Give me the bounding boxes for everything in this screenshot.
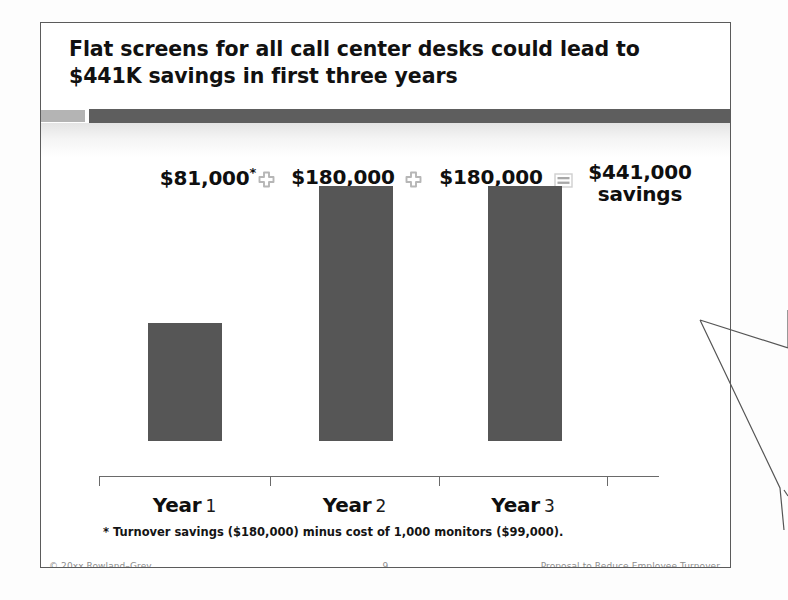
page-title: Flat screens for all call center desks c… [69,36,712,91]
chart-x-axis [99,476,659,487]
chart-footnote: * Turnover savings ($180,000) minus cost… [103,525,573,540]
presentation-slide: Flat screens for all call center desks c… [40,22,731,568]
x-axis-label-year-1: Year1 [99,493,270,517]
category-number: 3 [544,496,555,516]
x-axis-label-year-3: Year3 [439,493,607,517]
axis-tick [607,476,608,486]
axis-tick [270,476,271,486]
bar-year-3 [488,186,562,441]
axis-tick [99,476,100,486]
divider-main-bar [89,109,730,123]
footnote-marker: * [250,165,257,180]
category-word: Year [323,493,372,517]
divider-accent-segment [41,110,85,122]
bar-year-2 [319,186,393,441]
slide-title-block: Flat screens for all call center desks c… [41,23,730,109]
category-number: 1 [205,496,216,516]
total-savings-amount: $441,000 [577,161,703,183]
axis-baseline [99,476,659,477]
scanned-page-background: Flat screens for all call center desks c… [0,0,788,600]
header-shade-band [41,123,730,157]
category-word: Year [491,493,540,517]
category-word: Year [153,493,202,517]
bar-year-1 [148,323,222,441]
slide-footer: © 20xx Rowland–Grey 9 Proposal to Reduce… [41,561,730,568]
bar-chart-plot-area [99,183,659,441]
x-axis-label-year-2: Year2 [270,493,439,517]
category-number: 2 [375,496,386,516]
axis-tick [439,476,440,486]
footer-doc-title: Proposal to Reduce Employee Turnover [541,561,720,568]
title-divider [41,109,730,123]
